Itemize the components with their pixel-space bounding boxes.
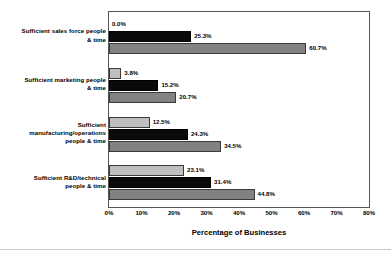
- bar-avg[interactable]: [109, 129, 188, 140]
- bar-row: 60.7%: [109, 43, 369, 54]
- bar-row: 31.4%: [109, 177, 369, 188]
- bar-value-label: 34.5%: [224, 142, 241, 149]
- bar-value-label: 31.4%: [214, 178, 231, 185]
- bar-row: 20.7%: [109, 92, 369, 103]
- bar-group: 3.8%15.2%20.7%: [109, 68, 369, 104]
- category-label-line: Sufficient: [0, 121, 106, 129]
- bar-row: 24.3%: [109, 129, 369, 140]
- category-label-line: people & time: [0, 137, 106, 145]
- bar-value-label: 0.0%: [112, 20, 126, 27]
- category-label-line: manufacturing/operations: [0, 129, 106, 137]
- bar-group: 23.1%31.4%44.8%: [109, 165, 369, 201]
- bar-value-label: 44.8%: [258, 190, 275, 197]
- category-label: Sufficient marketing people& time: [0, 76, 106, 92]
- bar-row: 34.5%: [109, 141, 369, 152]
- bar-worst[interactable]: [109, 117, 150, 128]
- bar-value-label: 12.5%: [153, 118, 170, 125]
- bar-row: 25.3%: [109, 31, 369, 42]
- x-tick-label: 20%: [168, 209, 180, 216]
- x-tick-label: 50%: [265, 209, 277, 216]
- x-tick-label: 70%: [330, 209, 342, 216]
- bar-row: 0.0%: [109, 19, 369, 30]
- bar-row: 3.8%: [109, 68, 369, 79]
- x-tick-label: 0%: [105, 209, 114, 216]
- x-tick-label: 60%: [298, 209, 310, 216]
- bar-avg[interactable]: [109, 31, 191, 42]
- bar-value-label: 15.2%: [161, 81, 178, 88]
- bar-best[interactable]: [109, 141, 221, 152]
- bar-value-label: 60.7%: [309, 44, 326, 51]
- x-tick-label: 40%: [233, 209, 245, 216]
- plot-area: 0.0%25.3%60.7%3.8%15.2%20.7%12.5%24.3%34…: [108, 11, 370, 208]
- category-label-line: Sufficient sales force people: [0, 27, 106, 35]
- bar-row: 23.1%: [109, 165, 369, 176]
- x-axis-title: Percentage of Businesses: [108, 228, 370, 237]
- category-label-column: Sufficient sales force people& timeSuffi…: [0, 11, 106, 208]
- bar-best[interactable]: [109, 43, 306, 54]
- x-tick-label: 30%: [200, 209, 212, 216]
- category-label: Sufficient sales force people& time: [0, 27, 106, 43]
- bar-value-label: 3.8%: [124, 69, 138, 76]
- bottom-divider: [0, 249, 391, 250]
- bar-group: 12.5%24.3%34.5%: [109, 117, 369, 153]
- category-label-line: & time: [0, 35, 106, 43]
- category-label-line: Sufficient marketing people: [0, 76, 106, 84]
- bar-value-label: 25.3%: [194, 32, 211, 39]
- category-label: Sufficient R&D/technicalpeople & time: [0, 173, 106, 189]
- chart-figure: Sufficient sales force people& timeSuffi…: [0, 0, 391, 255]
- x-tick-label: 10%: [135, 209, 147, 216]
- bar-best[interactable]: [109, 92, 176, 103]
- bar-row: 15.2%: [109, 80, 369, 91]
- bar-best[interactable]: [109, 189, 255, 200]
- bar-avg[interactable]: [109, 80, 158, 91]
- x-axis-ticks: 0%10%20%30%40%50%60%70%80%: [108, 209, 370, 221]
- bar-row: 12.5%: [109, 117, 369, 128]
- category-label-line: Sufficient R&D/technical: [0, 173, 106, 181]
- bar-group: 0.0%25.3%60.7%: [109, 19, 369, 55]
- bar-avg[interactable]: [109, 177, 211, 188]
- bar-value-label: 24.3%: [191, 130, 208, 137]
- bar-row: 44.8%: [109, 189, 369, 200]
- category-label-line: & time: [0, 84, 106, 92]
- bar-worst[interactable]: [109, 68, 121, 79]
- bar-worst[interactable]: [109, 165, 184, 176]
- category-label-line: people & time: [0, 182, 106, 190]
- category-label: Sufficientmanufacturing/operationspeople…: [0, 121, 106, 146]
- bar-value-label: 23.1%: [187, 166, 204, 173]
- bar-value-label: 20.7%: [179, 93, 196, 100]
- x-tick-label: 80%: [363, 209, 375, 216]
